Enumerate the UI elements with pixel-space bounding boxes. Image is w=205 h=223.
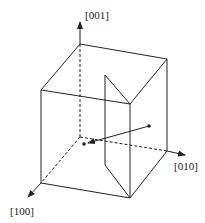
- cube-edge-bottom-front: [41, 183, 130, 198]
- slip-plane: [105, 75, 130, 198]
- cube-top-face: [41, 44, 167, 104]
- label-010: [010]: [174, 160, 198, 172]
- axis-010: [167, 151, 185, 155]
- hidden-edge-y: [80, 137, 167, 151]
- cube-edge-bottom-right: [130, 151, 167, 198]
- hidden-edge-x: [41, 137, 80, 183]
- axis-100: [28, 183, 41, 197]
- slip-direction-vector: [88, 126, 149, 143]
- label-100: [100]: [10, 205, 34, 217]
- label-001: [001]: [85, 9, 109, 21]
- vector-end-dot: [82, 142, 86, 146]
- crystal-diagram: [001] [010] [100]: [0, 0, 205, 223]
- vector-start-dot: [147, 124, 151, 128]
